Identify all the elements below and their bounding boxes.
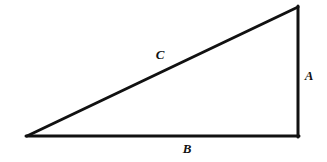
side-label-c: C — [156, 48, 165, 61]
figure-background — [0, 0, 327, 162]
side-label-b: B — [183, 142, 192, 155]
triangle-figure: A B C — [0, 0, 327, 162]
side-label-a: A — [305, 69, 314, 82]
triangle-drawing — [0, 0, 327, 162]
